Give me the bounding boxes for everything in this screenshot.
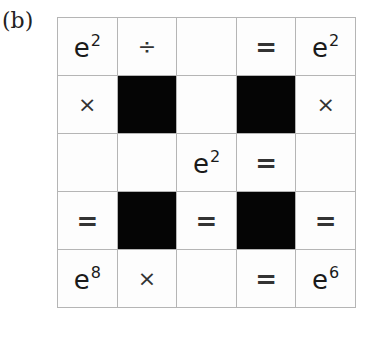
empty-cell[interactable] bbox=[118, 134, 178, 192]
black-cell bbox=[237, 192, 297, 250]
operator-cell: = bbox=[177, 192, 237, 250]
multiply-sign: × bbox=[316, 92, 334, 117]
operator-cell: = bbox=[237, 250, 297, 308]
multiply-sign: × bbox=[78, 92, 96, 117]
operator-cell: ÷ bbox=[118, 18, 178, 76]
value-cell: e2 bbox=[58, 18, 118, 76]
exponential-value: e2 bbox=[74, 33, 101, 61]
operator-cell: = bbox=[237, 18, 297, 76]
operator-cell: = bbox=[237, 134, 297, 192]
equals-sign: = bbox=[255, 264, 277, 294]
value-cell: e2 bbox=[296, 18, 356, 76]
equals-sign: = bbox=[196, 206, 218, 236]
equals-sign: = bbox=[255, 148, 277, 178]
value-cell: e6 bbox=[296, 250, 356, 308]
operator-cell: = bbox=[58, 192, 118, 250]
operator-cell: = bbox=[296, 192, 356, 250]
panel-label: (b) bbox=[2, 8, 33, 33]
divide-sign: ÷ bbox=[138, 34, 156, 59]
equals-sign: = bbox=[255, 32, 277, 62]
black-cell bbox=[118, 192, 178, 250]
exponential-value: e6 bbox=[312, 265, 339, 293]
black-cell bbox=[237, 76, 297, 134]
exponential-value: e2 bbox=[312, 33, 339, 61]
empty-cell[interactable] bbox=[296, 134, 356, 192]
operator-cell: × bbox=[296, 76, 356, 134]
multiply-sign: × bbox=[138, 266, 156, 291]
empty-cell[interactable] bbox=[177, 18, 237, 76]
black-cell bbox=[118, 76, 178, 134]
value-cell: e8 bbox=[58, 250, 118, 308]
equals-sign: = bbox=[315, 206, 337, 236]
value-cell: e2 bbox=[177, 134, 237, 192]
empty-cell[interactable] bbox=[177, 250, 237, 308]
operator-cell: × bbox=[58, 76, 118, 134]
equals-sign: = bbox=[76, 206, 98, 236]
math-crossword-grid: e2÷=e2××e2====e8×=e6 bbox=[57, 17, 356, 308]
exponential-value: e8 bbox=[74, 265, 101, 293]
empty-cell[interactable] bbox=[177, 76, 237, 134]
operator-cell: × bbox=[118, 250, 178, 308]
empty-cell[interactable] bbox=[58, 134, 118, 192]
exponential-value: e2 bbox=[193, 149, 220, 177]
